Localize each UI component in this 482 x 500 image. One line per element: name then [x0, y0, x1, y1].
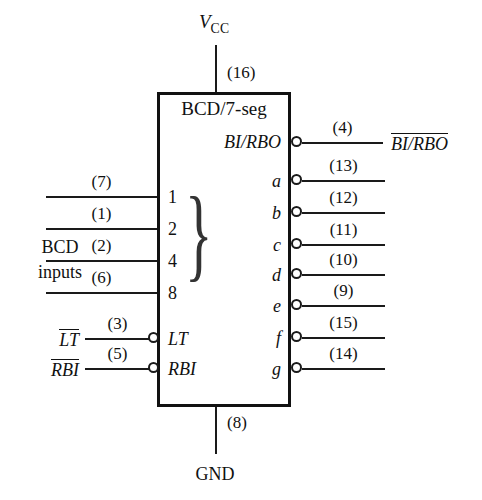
inner-label-d: d — [231, 266, 281, 284]
bubble-b — [291, 206, 302, 217]
pin-number-e: (9) — [302, 282, 385, 299]
pin-number-bcd-input-2: (1) — [46, 205, 157, 222]
bubble-lt — [148, 332, 159, 343]
external-label-bi-rbo: BI/RBO — [391, 133, 448, 153]
weight-label-4: 4 — [168, 252, 177, 270]
wire-bcd-input-8 — [46, 292, 157, 294]
gnd-wire — [215, 407, 217, 454]
wire-a — [302, 180, 385, 182]
pin-number-bi-rbo: (4) — [302, 119, 383, 136]
external-label-lt-text: LT — [59, 329, 79, 349]
bubble-d — [291, 268, 302, 279]
pin-number-g: (14) — [302, 345, 385, 362]
wire-lt — [85, 338, 150, 340]
bubble-f — [291, 331, 302, 342]
weight-label-8: 8 — [168, 284, 177, 302]
vcc-label-text: V — [199, 11, 211, 32]
external-label-rbi: RBI — [14, 359, 79, 379]
pin-number-d: (10) — [302, 251, 385, 268]
bubble-a — [291, 174, 302, 185]
external-label-rbi-text: RBI — [51, 359, 79, 379]
gnd-pin-number: (8) — [227, 414, 271, 431]
wire-b — [302, 212, 385, 214]
vcc-pin-number: (16) — [227, 64, 271, 81]
pin-number-bcd-input-4: (2) — [46, 237, 157, 254]
bubble-bi-rbo — [291, 136, 302, 147]
wire-bcd-input-4 — [46, 260, 157, 262]
inner-label-rbi: RBI — [168, 360, 196, 378]
wire-bcd-input-2 — [46, 228, 157, 230]
inner-label-e: e — [231, 297, 281, 315]
external-label-bi-rbo-text: BI/RBO — [391, 133, 448, 153]
pin-number-lt: (3) — [85, 315, 150, 332]
inner-label-g: g — [231, 360, 281, 378]
inner-label-b: b — [231, 204, 281, 222]
bubble-e — [291, 299, 302, 310]
inner-label-f: f — [231, 329, 281, 347]
bcd-inputs-brace: } — [185, 181, 212, 285]
wire-bi-rbo — [302, 142, 383, 144]
pin-number-bcd-input-8: (6) — [46, 269, 157, 286]
chip-title: BCD/7-seg — [157, 99, 291, 118]
pin-number-b: (12) — [302, 189, 385, 206]
wire-d — [302, 274, 385, 276]
vcc-wire — [215, 45, 217, 92]
pin-number-c: (11) — [302, 221, 385, 238]
inner-label-bi-rbo: BI/RBO — [171, 133, 281, 151]
wire-e — [302, 305, 385, 307]
pin-number-f: (15) — [302, 314, 385, 331]
bcd-7seg-decoder-diagram: VCC (16) BCD/7-seg BI/RBO (4) BI/RBO a (… — [0, 0, 482, 500]
weight-label-2: 2 — [168, 220, 177, 238]
bubble-g — [291, 362, 302, 373]
wire-bcd-input-1 — [46, 196, 157, 198]
inner-label-c: c — [231, 236, 281, 254]
pin-number-a: (13) — [302, 157, 385, 174]
bubble-c — [291, 238, 302, 249]
wire-g — [302, 368, 385, 370]
wire-rbi — [85, 368, 150, 370]
bubble-rbi — [148, 362, 159, 373]
vcc-label: VCC — [199, 12, 229, 35]
pin-number-rbi: (5) — [85, 345, 150, 362]
weight-label-1: 1 — [168, 188, 177, 206]
pin-number-bcd-input-1: (7) — [46, 173, 157, 190]
inner-label-a: a — [231, 172, 281, 190]
inner-label-lt: LT — [168, 330, 188, 348]
external-label-lt: LT — [31, 329, 79, 349]
gnd-label: GND — [175, 465, 255, 483]
wire-f — [302, 337, 385, 339]
vcc-label-subscript: CC — [211, 21, 230, 36]
wire-c — [302, 244, 385, 246]
